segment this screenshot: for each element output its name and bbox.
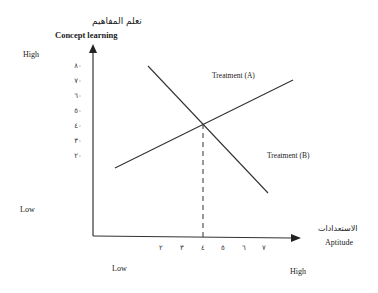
y-high-label: High (23, 50, 39, 59)
x-axis-title-arabic: الاستعدادات (318, 224, 358, 233)
x-high-label: High (290, 267, 306, 276)
x-axis-title: Aptitude (325, 238, 353, 247)
x-axis (93, 236, 292, 238)
x-low-label: Low (112, 264, 127, 273)
series-label-treatment-a: Treatment (A) (212, 71, 255, 80)
y-tick-label: ٦٠ (74, 92, 82, 100)
x-tick-label: ٧ (262, 244, 266, 252)
y-axis-title-arabic: تعلم المفاهيم (92, 16, 142, 26)
x-tick-label: ٢ (159, 244, 163, 252)
series-line-treatment-b (148, 66, 268, 193)
y-tick-label: ٤٠ (74, 122, 82, 130)
x-axis-arrow-icon (291, 234, 301, 242)
x-tick-label: ٦ (242, 244, 246, 252)
y-tick-label: ٨٠ (74, 62, 82, 70)
y-low-label: Low (20, 205, 35, 214)
x-tick-label: ٣ (180, 244, 184, 252)
series-label-treatment-b: Treatment (B) (267, 151, 309, 160)
chart-canvas (0, 0, 378, 293)
y-axis-arrow-icon (89, 44, 97, 53)
y-tick-label: ٥٠ (74, 107, 82, 115)
x-tick-label: ٥ (221, 244, 225, 252)
x-tick-label: ٤ (201, 244, 205, 252)
y-axis-title: Concept learning (55, 30, 118, 40)
y-tick-label: ٢٠ (74, 152, 82, 160)
y-tick-label: ٧٠ (74, 77, 82, 85)
y-tick-label: ٣٠ (74, 137, 82, 145)
